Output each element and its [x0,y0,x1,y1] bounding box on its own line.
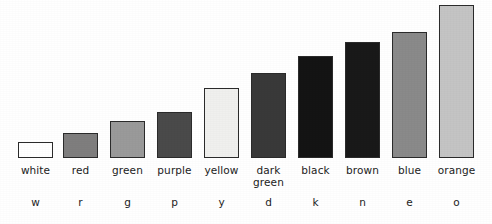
bar-w [18,142,53,158]
bar-e [392,32,427,158]
bar-n [345,42,380,158]
x-tick-o: orangeo [429,160,484,177]
bar-k [298,56,333,158]
bar-chart-figure: whitewredrgreengpurplepyellowydark green… [0,0,492,224]
plot-area [0,0,492,160]
bar-p [157,112,192,158]
x-axis-label-row: whitewredrgreengpurplepyellowydark green… [0,160,492,224]
bar-g [110,121,145,158]
bar-d [251,73,286,158]
bar-r [63,133,98,158]
x-tick-name-o: orange [429,160,484,177]
x-tick-code-o: o [429,196,484,208]
bar-y [204,88,239,158]
bar-o [439,5,474,158]
